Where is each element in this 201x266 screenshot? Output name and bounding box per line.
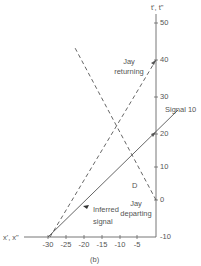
- jay-departing-label: Jay departing: [116, 200, 156, 217]
- jay-returning-label-line1: Jay: [109, 58, 149, 66]
- signal-10-label: Signal 10: [165, 106, 196, 114]
- t-tick-10: 10: [160, 163, 168, 171]
- spacetime-diagram: [0, 0, 201, 266]
- x-tick-minus-25: -25: [61, 241, 72, 249]
- t-tick-40: 40: [160, 56, 168, 64]
- x-tick-minus-5: -5: [134, 241, 141, 249]
- t-tick-30: 30: [160, 93, 168, 101]
- jay-returning-label: Jay returning: [109, 58, 149, 75]
- inferred-signal-label-line2: signal: [93, 218, 119, 226]
- t-tick-50: 50: [160, 19, 168, 27]
- x-tick-minus-15: -15: [97, 241, 108, 249]
- t-tick-0: 0: [160, 196, 164, 204]
- inferred-signal-label: Inferred signal: [93, 206, 119, 225]
- x-tick-minus-10: -10: [115, 241, 126, 249]
- jay-departing-label-line2: departing: [116, 210, 156, 218]
- x-tick-minus-30: -30: [43, 241, 54, 249]
- t-tick-minus-10: -10: [160, 233, 171, 241]
- x-axis-label: x', x": [3, 234, 19, 242]
- x-tick-minus-20: -20: [79, 241, 90, 249]
- inferred-signal-label-line1: Inferred: [93, 206, 119, 214]
- jay-departing-label-line1: Jay: [116, 200, 156, 208]
- point-d-label: D: [132, 182, 137, 190]
- t-tick-20: 20: [160, 130, 168, 138]
- figure-caption: (b): [90, 256, 99, 264]
- jay-returning-arrow-icon: [151, 60, 156, 65]
- t-axis-label: t', t": [151, 4, 163, 12]
- inferred-signal-arrow-icon: [83, 205, 89, 209]
- jay-returning-label-line2: returning: [109, 68, 149, 76]
